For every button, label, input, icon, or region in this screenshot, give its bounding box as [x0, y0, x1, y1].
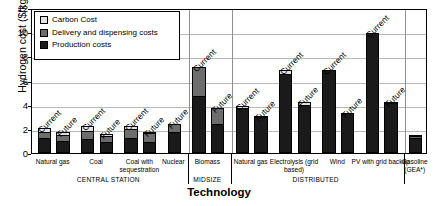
band-label: DISTRIBUTED	[218, 176, 413, 184]
bar-segment-production	[280, 75, 291, 152]
bar-segment-production	[299, 106, 310, 152]
bar	[279, 70, 292, 153]
legend-label-delivery: Delivery and dispensing costs	[52, 29, 158, 37]
bar-segment-production	[193, 97, 204, 152]
bar-segment-production	[212, 125, 223, 152]
y-tick-label: 8	[6, 52, 28, 62]
band-rule	[188, 154, 189, 184]
bar-segment-production	[144, 143, 155, 152]
y-tick-label: 6	[6, 77, 28, 87]
bar-segment-production	[237, 109, 248, 152]
bar-segment-production	[125, 139, 136, 152]
y-tick-mark-icon	[28, 154, 31, 155]
legend: Carbon Cost Delivery and dispensing cost…	[34, 11, 180, 60]
legend-swatch-delivery-icon	[40, 29, 48, 37]
hydrogen-cost-chart: Hydrogen cost ($/kg) 024681012 CurrentFu…	[0, 0, 438, 206]
legend-label-production: Production costs	[52, 41, 111, 49]
bar	[322, 70, 335, 153]
bar-segment-production	[410, 139, 421, 152]
bar-segment-production	[367, 34, 378, 152]
legend-item-production: Production costs	[40, 41, 174, 49]
category-label: Gasoline (GEA*)	[393, 158, 436, 173]
legend-swatch-carbon-icon	[40, 16, 48, 24]
y-tick-label: 2	[6, 125, 28, 135]
y-tick-label: 12	[6, 4, 28, 14]
bar-segment-production	[101, 143, 112, 152]
bar	[409, 135, 422, 153]
x-axis-label: Technology	[0, 186, 438, 198]
bar	[366, 33, 379, 153]
legend-item-carbon: Carbon Cost	[40, 16, 174, 24]
y-tick-label: 10	[6, 28, 28, 38]
legend-swatch-production-icon	[40, 41, 48, 49]
bar	[384, 102, 397, 153]
legend-item-delivery: Delivery and dispensing costs	[40, 29, 174, 37]
y-tick-label: 4	[6, 101, 28, 111]
bar	[298, 102, 311, 153]
band-label: CENTRAL STATION	[20, 176, 197, 184]
bar-segment-production	[169, 133, 180, 152]
bar-segment-production	[385, 104, 396, 152]
bar-segment-production	[255, 118, 266, 152]
bar-segment-production	[323, 71, 334, 152]
bar	[236, 106, 249, 153]
bar-segment-production	[342, 114, 353, 152]
bar-segment-delivery	[82, 132, 93, 140]
bar	[192, 67, 205, 153]
bar-segment-production	[57, 142, 68, 152]
band-rule	[231, 154, 232, 184]
bar-segment-production	[82, 140, 93, 152]
bar-segment-production	[39, 139, 50, 152]
legend-label-carbon: Carbon Cost	[52, 16, 97, 24]
bar	[211, 108, 224, 153]
band-rule	[404, 154, 405, 184]
